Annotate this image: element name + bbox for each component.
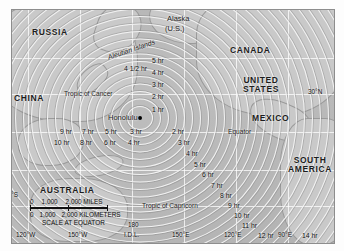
travel-time-label: 4 1/2 hr [124,66,147,73]
place-label-alaska-us: (U.S.) [165,25,185,33]
travel-time-label: 5 hr [194,162,206,169]
travel-time-label: 4 hr [152,70,164,77]
travel-time-label: 6 hr [104,140,116,147]
place-label-honolulu: Honolulu [108,114,138,122]
travel-time-label: 9 hr [228,203,240,210]
country-label-south-america: SOUTH AMERICA [284,156,335,173]
travel-time-label: 1 hr [152,107,164,114]
latitude-label-30n: 30°N [308,89,322,95]
scale-miles-mid: 1,000 [42,198,58,205]
epicenter-dot [138,116,142,120]
longitude-label-150e: 150°E [172,232,189,238]
place-label-alaska: Alaska [167,15,190,23]
tsunami-travel-time-map: RUSSIA CHINA CANADA UNITED STATES MEXICO… [0,0,344,251]
scale-km-mid: 1,000 [40,211,56,218]
scale-km-zero: 0 [30,211,34,218]
map-panel: RUSSIA CHINA CANADA UNITED STATES MEXICO… [11,9,335,244]
travel-time-label: 13 hr [268,243,284,244]
country-label-australia: AUSTRALIA [40,186,95,195]
travel-time-label: 4 hr [128,140,140,147]
longitude-label-120w: 120°W [16,232,35,238]
travel-time-label: 7 hr [82,129,94,136]
travel-time-label: 4 hr [186,151,198,158]
geoline-label-tropic-of-capricorn: Tropic of Capricorn [142,203,198,210]
travel-time-label: 3 hr [152,82,164,89]
travel-time-label: 14 hr [302,233,318,240]
scale-bar: 0 1,000 2,000 MILES 0 1,000 2,000 KILOME… [30,198,121,226]
travel-time-label: 10 hr [234,213,250,220]
country-label-canada: CANADA [230,46,270,55]
scale-miles-max: 2,000 MILES [66,198,103,205]
travel-time-label: 2 hr [152,94,164,101]
longitude-label-idl: I.D.L. [124,232,139,238]
country-label-china: CHINA [14,94,44,103]
travel-time-label: 11 hr [242,223,257,230]
travel-time-label: 2 hr [172,129,184,136]
travel-time-label: 3 hr [178,140,190,147]
country-label-united-states: UNITED STATES [234,76,288,93]
longitude-label-150w: 150°W [68,232,87,238]
geoline-label-tropic-of-cancer: Tropic of Cancer [64,91,113,98]
travel-time-label: 9 hr [60,129,72,136]
country-label-mexico: MEXICO [252,114,289,123]
latitude-label-30s: 30°S [11,192,18,198]
geoline-label-equator: Equator [228,129,251,136]
scale-km-max: 2,000 KILOMETERS [62,211,121,218]
scale-miles-zero: 0 [30,198,34,205]
travel-time-label: 8 hr [220,193,232,200]
country-label-russia: RUSSIA [32,28,68,37]
travel-time-label: 5 hr [105,129,117,136]
longitude-label-90e: 90°E [278,232,292,238]
travel-time-label: 3 hr [130,129,142,136]
scale-equator-note: SCALE AT EQUATOR [42,219,121,226]
longitude-label-180: 180 [128,222,139,228]
travel-time-label: 7 hr [211,183,223,190]
travel-time-label: 8 hr [80,140,92,147]
travel-time-label: 6 hr [202,172,214,179]
travel-time-label: 5 hr [152,58,164,65]
scale-rule-graphic [30,206,108,210]
travel-time-label: 10 hr [54,140,70,147]
travel-time-label: 12 hr [258,233,274,240]
travel-time-label: 15 hr [309,243,325,244]
longitude-label-120e: 120°E [224,232,241,238]
